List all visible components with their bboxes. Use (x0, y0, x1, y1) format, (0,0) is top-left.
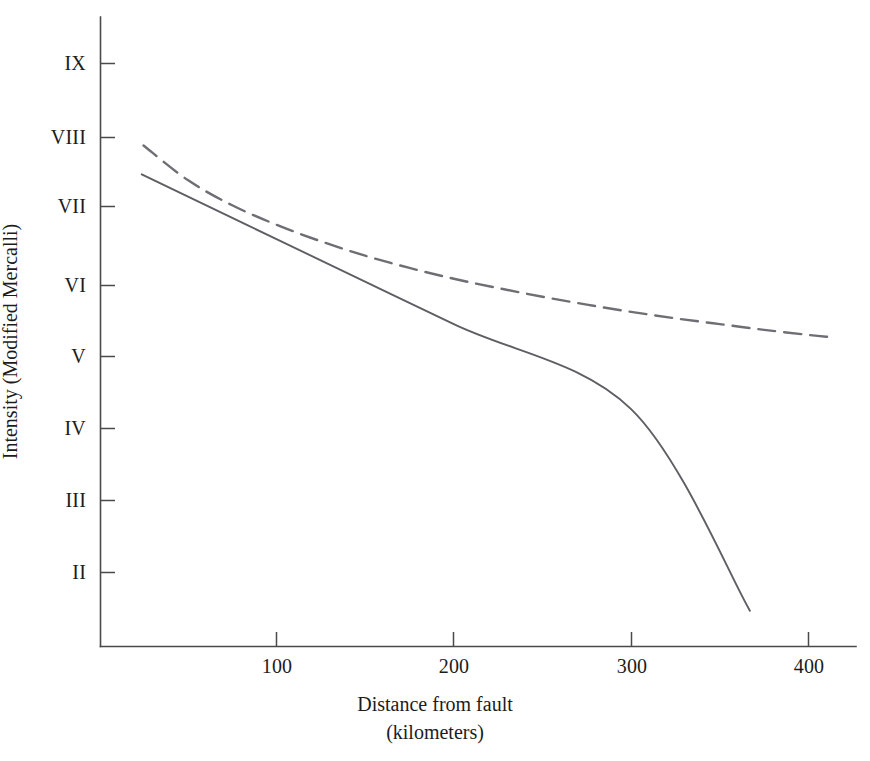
xtick-label-100: 100 (262, 655, 293, 678)
chart-figure: IX VIII VII VI V IV III II 100 200 300 4… (0, 0, 870, 761)
series-dashed-attenuation-curve (144, 146, 830, 338)
y-tick-marks (100, 64, 115, 573)
xtick-label-200: 200 (439, 655, 470, 678)
x-axis-title-line2: (kilometers) (0, 718, 870, 746)
ytick-label-v: V (18, 345, 86, 368)
x-axis-title: Distance from fault (kilometers) (0, 690, 870, 746)
y-axis-title: Intensity (Modified Mercalli) (0, 224, 22, 460)
xtick-label-300: 300 (617, 655, 648, 678)
ytick-label-viii: VIII (18, 126, 86, 149)
data-series-group (142, 146, 830, 611)
x-axis-title-line1: Distance from fault (357, 693, 513, 715)
ytick-label-ix: IX (18, 52, 86, 75)
series-solid-attenuation-line (142, 174, 750, 610)
xtick-label-400: 400 (794, 655, 825, 678)
ytick-label-vi: VI (18, 274, 86, 297)
ytick-label-iv: IV (18, 417, 86, 440)
x-tick-marks (277, 632, 809, 646)
ytick-label-ii: II (18, 561, 86, 584)
ytick-label-iii: III (18, 489, 86, 512)
plot-area (0, 0, 870, 761)
ytick-label-vii: VII (18, 195, 86, 218)
